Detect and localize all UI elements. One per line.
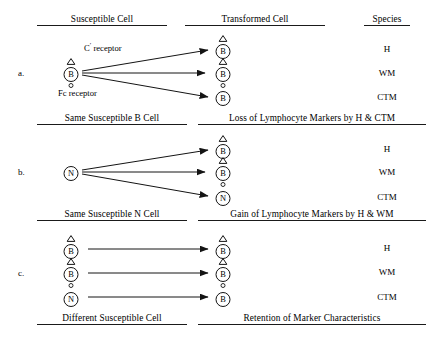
cell-body-label: N bbox=[64, 166, 79, 181]
c-receptor-icon bbox=[219, 235, 228, 242]
species-label: H bbox=[364, 243, 410, 253]
species-column-header-text: Species bbox=[364, 14, 410, 24]
panel-letter-a: a. bbox=[18, 68, 24, 78]
source-cell: N bbox=[58, 281, 84, 315]
panel-c-right-header-text: Gain of Lymphocyte Markers by H & WM bbox=[198, 209, 426, 219]
header-rule bbox=[37, 124, 187, 125]
header-rule bbox=[37, 220, 187, 221]
header-rule bbox=[198, 124, 426, 125]
header-rule bbox=[364, 25, 410, 26]
species-label: CTM bbox=[364, 192, 410, 202]
panel-a-right-header: Transformed Cell bbox=[185, 14, 325, 28]
panel-b-left-header: Same Susceptible B Cell bbox=[37, 113, 187, 127]
c-receptor-icon bbox=[67, 58, 76, 65]
header-rule bbox=[198, 220, 426, 221]
footer-right-text: Retention of Marker Characteristics bbox=[198, 313, 426, 323]
c-receptor-icon bbox=[67, 235, 76, 242]
c-receptor-icon bbox=[219, 157, 228, 164]
cell-body-label: B bbox=[216, 166, 231, 181]
species-column-header: Species bbox=[364, 14, 410, 28]
species-label: H bbox=[364, 44, 410, 54]
panel-b-right-header-text: Loss of Lymphocyte Markers by H & CTM bbox=[198, 113, 426, 123]
cell-body-label: B bbox=[216, 91, 231, 106]
panel-b-right-header: Loss of Lymphocyte Markers by H & CTM bbox=[198, 113, 426, 127]
c-receptor-icon bbox=[219, 35, 228, 42]
panel-b-left-header-text: Same Susceptible B Cell bbox=[37, 113, 187, 123]
panel-b-arrows bbox=[82, 150, 208, 196]
transformed-cell: B bbox=[210, 80, 236, 114]
species-label: CTM bbox=[364, 292, 410, 302]
species-label: WM bbox=[364, 167, 410, 177]
footer-right: Retention of Marker Characteristics bbox=[198, 313, 426, 327]
species-label: CTM bbox=[364, 92, 410, 102]
header-rule bbox=[37, 324, 187, 325]
footer-left-text: Different Susceptible Cell bbox=[37, 313, 187, 323]
c-receptor-label: C′ receptor bbox=[84, 41, 122, 53]
panel-c-arrows bbox=[88, 249, 208, 297]
panel-a-left-header-text: Susceptible Cell bbox=[37, 14, 167, 24]
cell-body-label: B bbox=[216, 267, 231, 282]
cell-body-label: B bbox=[64, 67, 79, 82]
panel-c-left-header: Same Susceptible N Cell bbox=[37, 209, 187, 223]
header-rule bbox=[37, 25, 167, 26]
panel-c-right-header: Gain of Lymphocyte Markers by H & WM bbox=[198, 209, 426, 223]
figure-canvas: a. Susceptible Cell Transformed Cell Spe… bbox=[0, 0, 433, 350]
footer-left: Different Susceptible Cell bbox=[37, 313, 187, 327]
panel-a-left-header: Susceptible Cell bbox=[37, 14, 167, 28]
panel-c-left-header-text: Same Susceptible N Cell bbox=[37, 209, 187, 219]
c-receptor-icon bbox=[219, 58, 228, 65]
species-label: H bbox=[364, 144, 410, 154]
species-label: WM bbox=[364, 267, 410, 277]
header-rule bbox=[198, 324, 426, 325]
cell-body-label: N bbox=[216, 191, 231, 206]
c-receptor-icon bbox=[219, 135, 228, 142]
panel-letter-c: c. bbox=[18, 268, 24, 278]
cell-body-label: N bbox=[64, 292, 79, 307]
source-cell-b: B bbox=[58, 56, 84, 90]
cell-body-label: B bbox=[216, 292, 231, 307]
header-rule bbox=[185, 25, 325, 26]
species-label: WM bbox=[364, 68, 410, 78]
source-cell-n: N bbox=[58, 155, 84, 189]
panel-a-arrows bbox=[82, 50, 208, 97]
c-receptor-icon bbox=[219, 258, 228, 265]
cell-body-label: B bbox=[64, 267, 79, 282]
fc-receptor-icon bbox=[69, 83, 74, 88]
panel-letter-b: b. bbox=[18, 167, 25, 177]
panel-a-right-header-text: Transformed Cell bbox=[185, 14, 325, 24]
c-receptor-icon bbox=[67, 258, 76, 265]
transformed-cell: B bbox=[210, 281, 236, 315]
